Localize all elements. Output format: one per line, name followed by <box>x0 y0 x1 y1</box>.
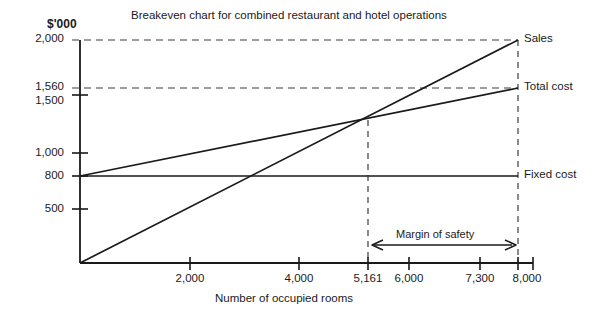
x-axis-caption: Number of occupied rooms <box>215 292 353 304</box>
x-tick-label-2000: 2,000 <box>155 272 225 284</box>
y-tick-label-1000: 1,000 <box>8 146 64 158</box>
series-line-total-cost <box>80 88 518 176</box>
x-tick-label-8000: 8,000 <box>492 272 562 284</box>
series-label-total-cost: Total cost <box>524 80 573 92</box>
y-tick-label-2000: 2,000 <box>8 32 64 44</box>
y-tick-label-1560: 1,560 <box>8 80 64 92</box>
y-tick-label-1500: 1,500 <box>8 94 64 106</box>
x-tick-label-6000: 6,000 <box>374 272 444 284</box>
margin-of-safety-arrow <box>372 240 516 250</box>
x-tick-label-4000: 4,000 <box>264 272 334 284</box>
series-label-fixed-cost: Fixed cost <box>524 168 576 180</box>
margin-of-safety-label: Margin of safety <box>396 228 474 240</box>
series-label-sales: Sales <box>524 32 553 44</box>
y-tick-label-500: 500 <box>8 202 64 214</box>
breakeven-chart: Breakeven chart for combined restaurant … <box>0 0 602 320</box>
y-tick-label-800: 800 <box>8 169 64 181</box>
